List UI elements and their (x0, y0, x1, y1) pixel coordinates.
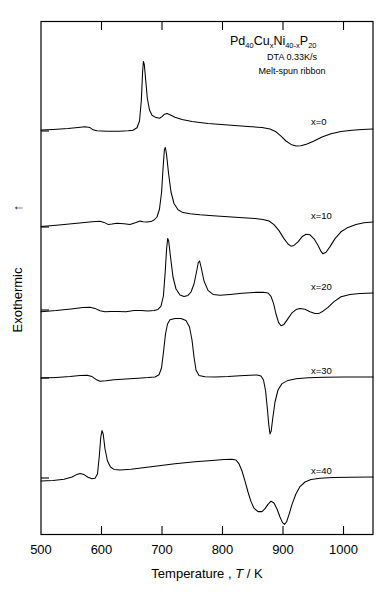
xtick-label-900: 900 (272, 542, 294, 557)
dta-rate-label: DTA 0.33K/s (267, 52, 317, 62)
y-axis-arrow-group: ↑ (10, 205, 25, 212)
curve-x40 (41, 431, 373, 525)
curve-x10 (41, 148, 373, 254)
bottom-tick-marks (102, 526, 344, 535)
curve-label-x20: x=20 (311, 281, 332, 292)
xtick-label-1000: 1000 (329, 542, 358, 557)
xtick-label-700: 700 (151, 542, 173, 557)
curve-label-x40: x=40 (311, 465, 332, 476)
xtick-label-500: 500 (30, 542, 52, 557)
sample-form-label: Melt-spun ribbon (258, 66, 325, 76)
plot-frame (41, 22, 373, 535)
x-axis-title: Temperature , T / K (151, 566, 263, 581)
formula-pd-sub: 40 (245, 41, 253, 50)
x-axis-title-post: / K (243, 566, 263, 581)
dta-chart: x=0 x=10 x=20 x=30 x=40 Pd40CuxNi40-xP20… (0, 0, 389, 592)
y-axis-title-group: Exothermic (10, 267, 25, 333)
formula-ni-sub: 40-x (285, 41, 300, 50)
exothermic-up-arrow-icon: ↑ (10, 205, 25, 212)
y-axis-title: Exothermic (10, 267, 25, 333)
formula-pd: Pd (230, 34, 245, 48)
xtick-label-800: 800 (212, 542, 234, 557)
top-tick-marks (102, 22, 344, 31)
composition-formula: Pd40CuxNi40-xP20 (230, 34, 316, 50)
curve-label-x0: x=0 (311, 116, 327, 127)
formula-cu: Cu (254, 34, 270, 48)
formula-p-sub: 20 (308, 41, 316, 50)
formula-ni: Ni (273, 34, 285, 48)
curve-label-x10: x=10 (311, 210, 332, 221)
xtick-label-600: 600 (91, 542, 113, 557)
curve-label-x30: x=30 (311, 365, 332, 376)
formula-p: P (300, 34, 308, 48)
left-tick-marks (41, 131, 49, 478)
x-axis-title-pre: Temperature , (151, 566, 235, 581)
figure-root: x=0 x=10 x=20 x=30 x=40 Pd40CuxNi40-xP20… (0, 0, 389, 592)
curve-x30 (41, 318, 373, 434)
